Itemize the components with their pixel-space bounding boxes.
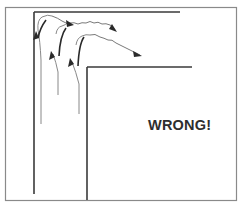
arrow-right-icon bbox=[133, 51, 142, 57]
wavy-flow-lines bbox=[52, 16, 140, 55]
arrow-right-icon bbox=[66, 20, 74, 27]
wrong-label: WRONG! bbox=[148, 117, 211, 133]
arrow-up-icon bbox=[49, 51, 55, 60]
curved-arrows bbox=[38, 20, 84, 66]
diagram-canvas bbox=[0, 0, 241, 206]
inner-wall bbox=[87, 67, 192, 200]
figure-frame bbox=[6, 8, 237, 201]
arrowheads bbox=[33, 20, 142, 67]
